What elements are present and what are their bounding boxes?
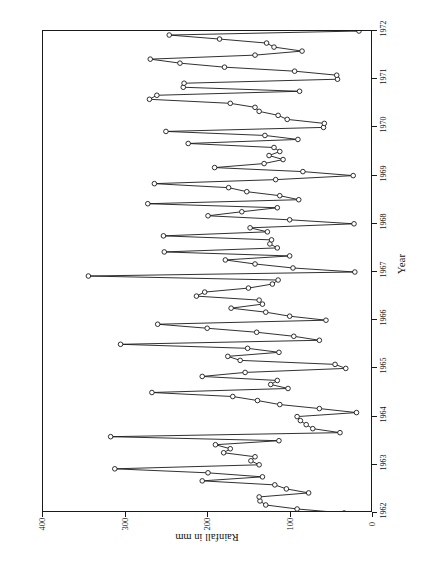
data-point-marker [194, 294, 199, 299]
chart-page: Rainfall in Fort Portal : 1962 – 1971 01… [0, 0, 421, 575]
data-point-marker [351, 173, 356, 178]
category-axis-tick [372, 319, 377, 320]
data-point-marker [206, 213, 211, 218]
data-point-marker [222, 65, 227, 70]
data-point-marker [244, 189, 249, 194]
plot-area [42, 30, 372, 512]
category-axis-tick [372, 271, 377, 272]
data-point-marker [186, 141, 191, 146]
data-point-marker [273, 177, 278, 182]
data-point-marker [297, 89, 302, 94]
data-point-marker [148, 57, 153, 62]
data-point-marker [270, 282, 275, 287]
data-point-marker [287, 314, 292, 319]
data-point-marker [272, 145, 277, 150]
data-point-marker [272, 45, 277, 50]
data-point-marker [296, 137, 301, 142]
data-point-marker [263, 310, 268, 315]
value-axis-title: Rainfall in mm [142, 532, 272, 543]
data-point-marker [200, 374, 205, 379]
data-point-marker [287, 254, 292, 259]
data-point-marker [324, 318, 329, 323]
data-point-marker [257, 298, 262, 303]
data-point-marker [248, 226, 253, 231]
data-point-marker [112, 467, 117, 472]
data-point-marker [265, 230, 270, 235]
data-point-marker [223, 258, 228, 263]
data-point-marker [275, 246, 280, 251]
data-point-marker [240, 209, 245, 214]
data-point-marker [277, 193, 282, 198]
data-point-marker [254, 330, 259, 335]
data-point-marker [226, 354, 231, 359]
value-axis-tick-label: 100 [285, 509, 295, 539]
data-point-marker [243, 370, 248, 375]
data-point-marker [229, 306, 234, 311]
category-axis-tick-label: 1963 [379, 445, 388, 479]
data-point-marker [338, 430, 343, 435]
data-point-marker [221, 450, 226, 455]
data-point-marker [276, 278, 281, 283]
data-point-marker [263, 133, 268, 138]
data-point-marker [277, 438, 282, 443]
data-point-marker [182, 81, 187, 86]
category-axis-tick [372, 175, 377, 176]
data-point-marker [118, 342, 123, 347]
data-point-marker [273, 483, 278, 488]
data-point-marker [108, 434, 113, 439]
data-point-marker [268, 382, 273, 387]
data-point-marker [230, 394, 235, 399]
category-axis-tick-label: 1971 [379, 60, 388, 94]
data-point-marker [322, 121, 327, 126]
category-axis-tick-label: 1969 [379, 156, 388, 190]
data-point-marker [155, 93, 160, 98]
data-point-marker [281, 157, 286, 162]
data-point-marker [253, 105, 258, 110]
value-axis-tick-label: 0 [367, 509, 377, 539]
category-axis-tick [372, 416, 377, 417]
category-axis-tick-label: 1962 [379, 494, 388, 528]
category-axis-tick-label: 1965 [379, 349, 388, 383]
data-point-marker [317, 338, 322, 343]
data-point-marker [228, 101, 233, 106]
data-point-marker [275, 378, 280, 383]
category-axis-tick [372, 126, 377, 127]
data-point-marker [269, 238, 274, 243]
data-point-marker [277, 350, 282, 355]
data-point-marker [292, 334, 297, 339]
data-point-marker [212, 165, 217, 170]
data-point-marker [150, 390, 155, 395]
data-point-marker [292, 69, 297, 74]
data-point-marker [202, 290, 207, 295]
data-point-marker [228, 446, 233, 451]
data-point-marker [238, 358, 243, 363]
category-axis-tick-label: 1970 [379, 108, 388, 142]
data-point-marker [255, 398, 260, 403]
data-point-marker [213, 442, 218, 447]
category-axis-tick [372, 78, 377, 79]
category-axis-tick [372, 30, 377, 31]
data-point-marker [300, 49, 305, 54]
data-point-marker [147, 97, 152, 102]
data-point-marker [295, 414, 300, 419]
data-point-marker [253, 454, 258, 459]
data-point-marker [253, 262, 258, 267]
data-point-marker [178, 61, 183, 66]
data-point-marker [354, 410, 359, 415]
category-axis-tick [372, 464, 377, 465]
data-point-marker [200, 479, 205, 484]
data-point-marker [260, 475, 265, 480]
data-point-marker [257, 495, 262, 500]
category-axis-tick [372, 367, 377, 368]
data-point-marker [206, 471, 211, 476]
data-point-marker [145, 201, 150, 206]
category-axis-tick [372, 512, 377, 513]
data-point-marker [353, 270, 358, 275]
data-point-marker [296, 197, 301, 202]
data-point-marker [263, 503, 268, 508]
data-point-marker [277, 149, 282, 154]
data-point-marker [306, 491, 311, 496]
data-point-marker [286, 386, 291, 391]
data-point-marker [267, 153, 272, 158]
data-point-marker [217, 37, 222, 42]
